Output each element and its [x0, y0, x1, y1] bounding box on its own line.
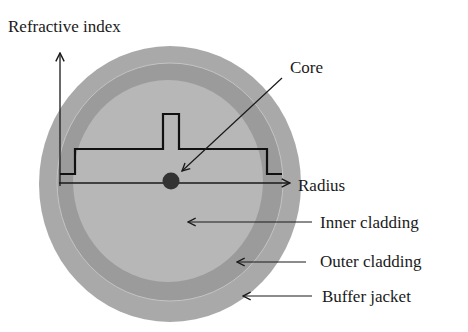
core-label: Core	[290, 58, 323, 77]
y-axis-label: Refractive index	[8, 17, 121, 36]
buffer-jacket-label: Buffer jacket	[322, 287, 411, 306]
core-dot	[163, 173, 180, 190]
x-axis-label: Radius	[298, 176, 345, 195]
outer-cladding-label: Outer cladding	[320, 252, 422, 271]
fiber-diagram: Refractive index Core Radius Inner cladd…	[0, 0, 468, 332]
inner-cladding-label: Inner cladding	[320, 213, 419, 232]
